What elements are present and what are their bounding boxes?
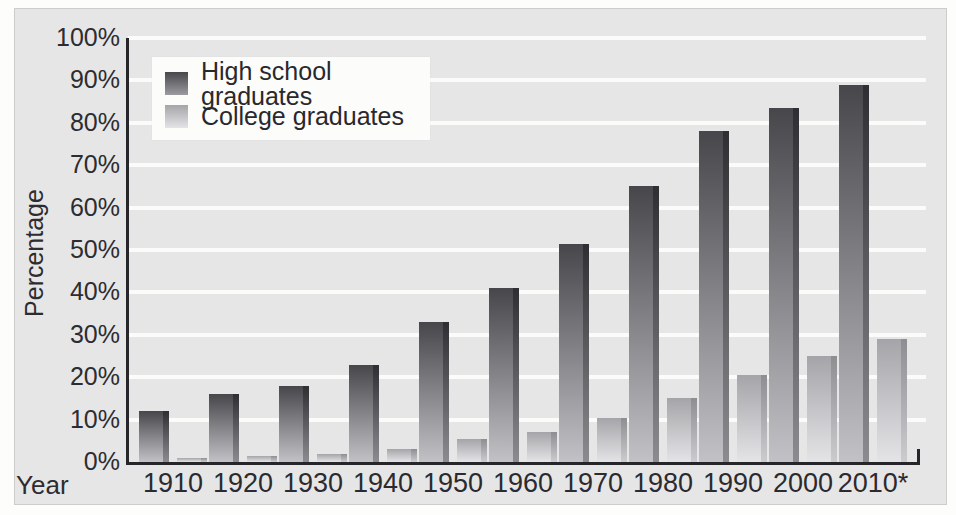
bar-college-1970 — [597, 418, 627, 463]
bar-high-school-1970 — [559, 244, 589, 462]
bar-college-1950 — [457, 439, 487, 462]
y-axis-line — [126, 38, 129, 465]
bar-high-school-1930 — [279, 386, 309, 462]
bar-college-1960-shadow-edge — [551, 432, 557, 462]
bar-high-school-1960-shadow-edge — [513, 288, 519, 462]
bar-high-school-2010-face — [839, 85, 863, 462]
y-tick-label-20: 20% — [28, 364, 120, 389]
bar-high-school-1930-shadow-edge — [303, 386, 309, 462]
bar-chart-figure: 0%10%20%30%40%50%60%70%80%90%100% 191019… — [0, 0, 956, 515]
gridline-70 — [128, 163, 926, 167]
y-tick-label-100: 100% — [28, 25, 120, 50]
bar-high-school-1950-face — [419, 322, 443, 462]
bar-college-1980 — [667, 398, 697, 462]
bar-college-1990-face — [737, 375, 761, 462]
bar-high-school-1970-shadow-edge — [583, 244, 589, 462]
bar-college-1940 — [387, 449, 417, 462]
y-axis-title: Percentage — [20, 189, 49, 317]
bar-high-school-1960 — [489, 288, 519, 462]
bar-college-1930 — [317, 454, 347, 463]
bar-college-2000 — [807, 356, 837, 462]
bar-college-1980-face — [667, 398, 691, 462]
bar-high-school-1920 — [209, 394, 239, 462]
x-axis-title: Year — [16, 470, 96, 501]
bar-high-school-1970-face — [559, 244, 583, 462]
bar-high-school-1910-face — [139, 411, 163, 462]
legend-item-high-school: High school graduates — [165, 68, 430, 99]
y-tick-label-90: 90% — [28, 67, 120, 92]
bar-high-school-1920-face — [209, 394, 233, 462]
x-tick-label-2010: 2010* — [823, 470, 923, 497]
bar-college-2010-shadow-edge — [901, 339, 907, 462]
bar-high-school-1920-shadow-edge — [233, 394, 239, 462]
bar-college-1960 — [527, 432, 557, 462]
bar-high-school-1940-face — [349, 365, 373, 463]
bar-college-2000-shadow-edge — [831, 356, 837, 462]
gridline-100 — [128, 36, 926, 40]
bar-college-1930-face — [317, 454, 341, 463]
legend-item-college: College graduates — [165, 101, 430, 132]
bar-college-1930-shadow-edge — [341, 454, 347, 463]
legend: High school graduates College graduates — [152, 57, 430, 140]
bar-high-school-1980 — [629, 186, 659, 462]
bar-high-school-2010-shadow-edge — [863, 85, 869, 462]
bar-college-1940-shadow-edge — [411, 449, 417, 462]
bar-high-school-1910 — [139, 411, 169, 462]
bar-high-school-1990 — [699, 131, 729, 462]
bar-high-school-1950 — [419, 322, 449, 462]
x-axis-line — [126, 462, 920, 465]
bar-high-school-1910-shadow-edge — [163, 411, 169, 462]
y-tick-label-10: 10% — [28, 407, 120, 432]
legend-label-college: College graduates — [201, 104, 404, 129]
bar-college-2010-face — [877, 339, 901, 462]
bar-high-school-2000-shadow-edge — [793, 108, 799, 462]
bar-college-1990-shadow-edge — [761, 375, 767, 462]
x-axis-end-tick — [917, 449, 920, 464]
bar-college-1970-face — [597, 418, 621, 463]
bar-high-school-1980-face — [629, 186, 653, 462]
bar-high-school-2000-face — [769, 108, 793, 462]
bar-high-school-1930-face — [279, 386, 303, 462]
bar-high-school-1990-face — [699, 131, 723, 462]
y-tick-label-30: 30% — [28, 322, 120, 347]
bar-high-school-1940-shadow-edge — [373, 365, 379, 463]
bar-college-1950-face — [457, 439, 481, 462]
bar-high-school-1940 — [349, 365, 379, 463]
gridline-50 — [128, 248, 926, 252]
bar-college-2000-face — [807, 356, 831, 462]
gridline-40 — [128, 290, 926, 294]
bar-college-1990 — [737, 375, 767, 462]
bar-college-2010 — [877, 339, 907, 462]
high-school-swatch-icon — [165, 72, 188, 95]
bar-high-school-1950-shadow-edge — [443, 322, 449, 462]
bar-college-1940-face — [387, 449, 411, 462]
bar-college-1980-shadow-edge — [691, 398, 697, 462]
y-tick-label-80: 80% — [28, 110, 120, 135]
y-tick-label-70: 70% — [28, 152, 120, 177]
bar-college-1950-shadow-edge — [481, 439, 487, 462]
bar-college-1970-shadow-edge — [621, 418, 627, 463]
bar-high-school-2000 — [769, 108, 799, 462]
bar-high-school-1960-face — [489, 288, 513, 462]
gridline-30 — [128, 333, 926, 337]
bar-college-1960-face — [527, 432, 551, 462]
gridline-60 — [128, 206, 926, 210]
bar-high-school-1990-shadow-edge — [723, 131, 729, 462]
college-swatch-icon — [165, 105, 188, 128]
bar-high-school-1980-shadow-edge — [653, 186, 659, 462]
bar-high-school-2010 — [839, 85, 869, 462]
legend-label-high-school: High school graduates — [201, 59, 430, 109]
